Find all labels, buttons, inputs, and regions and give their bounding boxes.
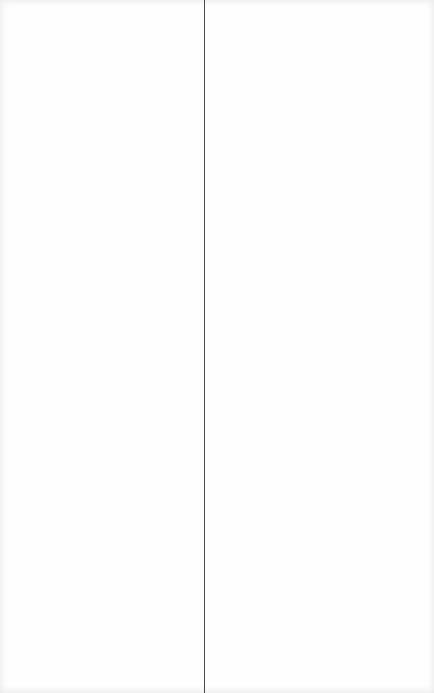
right-pane: [205, 0, 434, 693]
left-pane: [0, 0, 204, 693]
blank-page: [0, 0, 434, 693]
